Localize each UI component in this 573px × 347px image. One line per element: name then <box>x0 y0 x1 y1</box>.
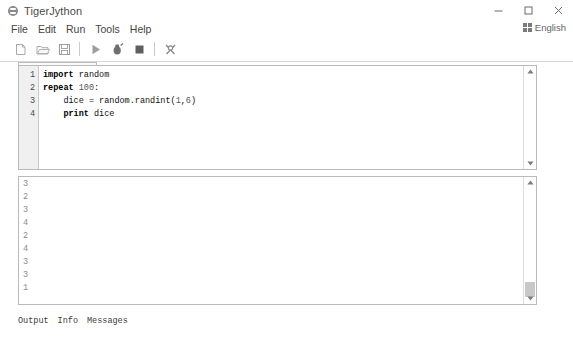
play-icon[interactable] <box>85 39 105 59</box>
output-panel[interactable]: 323424331 <box>18 176 537 305</box>
bottom-tab-bar: Output Info Messages <box>18 315 128 327</box>
open-folder-icon[interactable] <box>32 39 52 59</box>
output-line: 4 <box>23 243 536 256</box>
menu-item-edit[interactable]: Edit <box>33 21 61 37</box>
chevron-down-icon[interactable] <box>524 158 536 169</box>
code-token: dice <box>89 109 115 119</box>
chevron-up-icon[interactable] <box>524 66 536 77</box>
line-number: 1 <box>19 69 38 82</box>
code-token: : <box>94 83 99 93</box>
line-number: 3 <box>19 95 38 108</box>
code-token: repeat <box>43 83 74 93</box>
output-text-area: 323424331 <box>19 177 536 295</box>
menu-bar: File Edit Run Tools Help English <box>0 21 573 37</box>
output-line: 2 <box>23 230 536 243</box>
stop-square-icon[interactable] <box>129 39 149 59</box>
line-number: 4 <box>19 108 38 121</box>
code-text-area[interactable]: import randomrepeat 100: dice = random.r… <box>39 66 536 169</box>
language-label: English <box>535 22 566 33</box>
output-line: 3 <box>23 256 536 269</box>
bottom-tab-output[interactable]: Output <box>18 315 49 327</box>
new-document-icon[interactable] <box>10 39 30 59</box>
code-line: print dice <box>43 108 536 121</box>
code-line: import random <box>43 69 536 82</box>
code-line: repeat 100: <box>43 82 536 95</box>
close-icon[interactable] <box>543 0 573 21</box>
code-token: print <box>63 109 89 119</box>
toolbar <box>0 37 573 62</box>
menu-item-run[interactable]: Run <box>61 21 90 37</box>
chevron-down-icon[interactable] <box>524 293 536 304</box>
code-token: random <box>74 70 110 80</box>
menu-item-help[interactable]: Help <box>125 21 157 37</box>
code-editor-panel[interactable]: 1 2 3 4 import randomrepeat 100: dice = … <box>18 65 537 170</box>
bug-icon[interactable] <box>107 39 127 59</box>
maximize-icon[interactable] <box>513 0 543 21</box>
toolbar-separator-2 <box>154 42 155 56</box>
chevron-up-icon[interactable] <box>524 177 536 188</box>
window-title: TigerJython <box>24 5 82 17</box>
wrench-tools-icon[interactable] <box>160 39 180 59</box>
window-controls <box>483 0 573 21</box>
output-scrollbar[interactable] <box>523 177 536 304</box>
code-token: dice = random.randint( <box>43 96 176 106</box>
output-line: 4 <box>23 217 536 230</box>
minimize-icon[interactable] <box>483 0 513 21</box>
line-number-gutter: 1 2 3 4 <box>19 66 39 169</box>
line-number: 2 <box>19 82 38 95</box>
menu-item-file[interactable]: File <box>6 21 33 37</box>
language-indicator[interactable]: English <box>523 22 566 33</box>
code-line: dice = random.randint(1,6) <box>43 95 536 108</box>
editor-scrollbar[interactable] <box>523 66 536 169</box>
tiger-icon <box>7 5 19 17</box>
keyboard-grid-icon <box>523 23 532 32</box>
output-line: 3 <box>23 269 536 282</box>
title-bar: TigerJython <box>0 0 573 21</box>
code-token: 100 <box>79 83 94 93</box>
code-token: import <box>43 70 74 80</box>
bottom-tab-info[interactable]: Info <box>58 315 78 327</box>
output-line: 3 <box>23 178 536 191</box>
output-line: 2 <box>23 191 536 204</box>
bottom-tab-messages[interactable]: Messages <box>87 315 128 327</box>
output-line: 1 <box>23 282 536 295</box>
code-token: ) <box>191 96 196 106</box>
menu-item-tools[interactable]: Tools <box>90 21 125 37</box>
floppy-save-icon[interactable] <box>54 39 74 59</box>
output-line: 3 <box>23 204 536 217</box>
toolbar-separator-1 <box>79 42 80 56</box>
code-token <box>43 109 63 119</box>
